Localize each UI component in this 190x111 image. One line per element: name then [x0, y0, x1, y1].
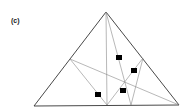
markers — [95, 55, 137, 97]
base-mid-to-right-side-line — [107, 58, 143, 105]
triangle-diagram — [0, 0, 190, 111]
right-side-to-base-foot-line — [131, 58, 143, 105]
apex-to-base-mid-line — [106, 12, 107, 105]
marker — [131, 68, 137, 73]
left-side-to-base-mid-line — [70, 59, 107, 105]
marker — [116, 55, 122, 60]
marker — [95, 92, 101, 97]
marker — [120, 88, 126, 93]
